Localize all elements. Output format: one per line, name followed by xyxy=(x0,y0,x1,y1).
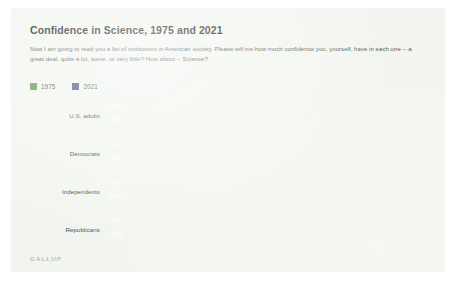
category-label-us-adults: U.S. adults xyxy=(30,112,100,119)
bar-value-1975-republicans: 72% xyxy=(110,219,122,225)
chart-subtitle: Now I am going to read you a list of ins… xyxy=(30,44,414,65)
bar-value-2021-republicans: 45% xyxy=(110,232,122,238)
bar-value-1975-us-adults: 70% xyxy=(110,105,122,111)
bar-pair-republicans: 72% 45% xyxy=(107,216,428,242)
chart-legend: 1975 2021 xyxy=(30,83,98,90)
chart-card: Confidence in Science, 1975 and 2021 Now… xyxy=(11,8,445,272)
legend-label-2021: 2021 xyxy=(83,83,97,90)
legend-label-1975: 1975 xyxy=(41,83,55,90)
legend-item-1975[interactable]: 1975 xyxy=(30,83,55,90)
bar-pair-us-adults: 70% 64% xyxy=(107,102,428,128)
chart-plot-area: U.S. adults 70% 64% Democrats 67% xyxy=(30,102,428,244)
category-label-democrats: Democrats xyxy=(30,150,100,157)
category-label-independents: Independents xyxy=(30,188,100,195)
bar-pair-democrats: 67% 79% xyxy=(107,140,428,166)
bar-group-republicans: Republicans 72% 45% xyxy=(30,216,428,242)
bar-group-democrats: Democrats 67% 79% xyxy=(30,140,428,166)
category-label-republicans: Republicans xyxy=(30,226,100,233)
bar-group-independents: Independents 73% 65% xyxy=(30,178,428,204)
bar-value-1975-democrats: 67% xyxy=(110,143,122,149)
bar-value-2021-democrats: 79% xyxy=(110,156,122,162)
source-label: GALLUP xyxy=(30,255,62,262)
legend-swatch-2021 xyxy=(72,83,79,90)
bar-value-1975-independents: 73% xyxy=(110,181,122,187)
legend-swatch-1975 xyxy=(30,83,37,90)
legend-item-2021[interactable]: 2021 xyxy=(72,83,97,90)
bar-group-us-adults: U.S. adults 70% 64% xyxy=(30,102,428,128)
bar-value-2021-independents: 65% xyxy=(110,194,122,200)
bar-pair-independents: 73% 65% xyxy=(107,178,428,204)
bar-value-2021-us-adults: 64% xyxy=(110,118,122,124)
chart-title: Confidence in Science, 1975 and 2021 xyxy=(30,24,223,36)
